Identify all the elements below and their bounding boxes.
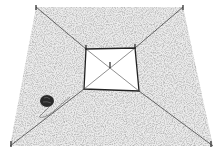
- caption: [6, 149, 221, 157]
- plot-layout-illustration: [0, 0, 223, 157]
- center-square: [84, 44, 139, 91]
